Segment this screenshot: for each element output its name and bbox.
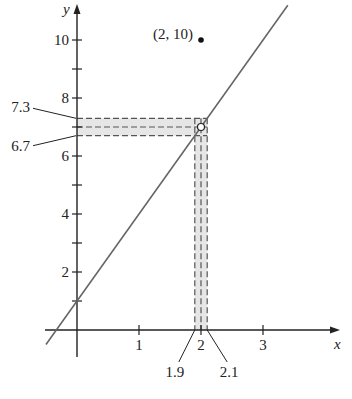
y-tick-label: 4 <box>62 206 70 222</box>
x-low-leader <box>179 330 195 362</box>
epsilon-delta-diagram: xy1232468107.36.71.92.1(2, 10) <box>0 0 352 399</box>
y-axis-label: y <box>61 1 70 17</box>
x-low-label: 1.9 <box>165 364 184 380</box>
x-axis-arrow-icon <box>330 327 340 334</box>
y-high-label: 7.3 <box>11 99 30 115</box>
y-tick-label: 10 <box>54 32 69 48</box>
x-high-label: 2.1 <box>220 364 239 380</box>
y-tick-label: 2 <box>62 264 70 280</box>
y-low-leader <box>33 136 76 146</box>
x-high-leader <box>207 330 227 362</box>
filled-point <box>198 37 204 43</box>
open-point <box>198 124 205 131</box>
y-tick-label: 6 <box>62 148 70 164</box>
x-tick-label: 3 <box>259 337 267 353</box>
y-axis-arrow-icon <box>74 4 81 14</box>
function-line <box>46 5 288 344</box>
y-high-leader <box>33 108 76 118</box>
x-axis-label: x <box>333 336 341 352</box>
x-tick-label: 2 <box>197 337 205 353</box>
point-label: (2, 10) <box>153 26 193 43</box>
x-tick-label: 1 <box>135 337 143 353</box>
y-tick-label: 8 <box>62 90 70 106</box>
y-low-label: 6.7 <box>11 138 30 154</box>
